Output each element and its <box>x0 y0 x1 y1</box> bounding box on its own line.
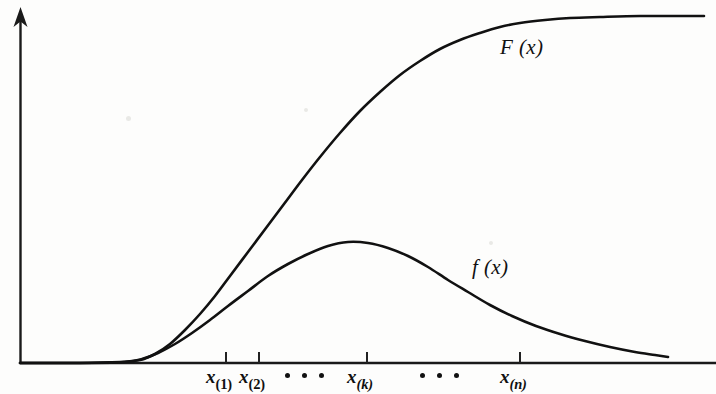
tick-label-x2-subscript: (2) <box>249 376 265 392</box>
tick-label-xk-base: x <box>347 366 357 387</box>
tick-label-x2-base: x <box>239 366 249 387</box>
ellipsis-between-x2-and-xk <box>285 373 324 378</box>
tick-label-xk: x(k) <box>347 367 373 391</box>
ellipsis-dot <box>285 373 290 378</box>
tick-label-xn: x(n) <box>500 367 527 391</box>
tick-label-x2: x(2) <box>239 367 265 391</box>
ellipsis-between-xk-and-xn <box>420 373 459 378</box>
tick-label-x1-base: x <box>206 366 216 387</box>
tick-label-xk-subscript: (k) <box>357 376 373 392</box>
figure-canvas: F (x) f (x) x(1) x(2) x(k) x(n) <box>0 0 716 394</box>
scan-speck <box>126 116 131 121</box>
tick-label-xn-base: x <box>500 366 510 387</box>
cdf-curve-label: F (x) <box>500 37 543 58</box>
scan-speck <box>304 108 308 112</box>
tick-label-x1-subscript: (1) <box>216 376 232 392</box>
tick-label-xn-subscript: (n) <box>510 376 527 392</box>
ellipsis-dot <box>454 373 459 378</box>
pdf-curve <box>20 242 668 363</box>
scan-speck <box>489 241 493 245</box>
ellipsis-dot <box>437 373 442 378</box>
ellipsis-dot <box>420 373 425 378</box>
x-axis-ticks <box>226 352 520 363</box>
figure-svg <box>0 0 716 394</box>
cdf-curve <box>20 16 704 363</box>
pdf-curve-label: f (x) <box>472 257 508 278</box>
ellipsis-dot <box>302 373 307 378</box>
tick-label-x1: x(1) <box>206 367 232 391</box>
ellipsis-dot <box>319 373 324 378</box>
